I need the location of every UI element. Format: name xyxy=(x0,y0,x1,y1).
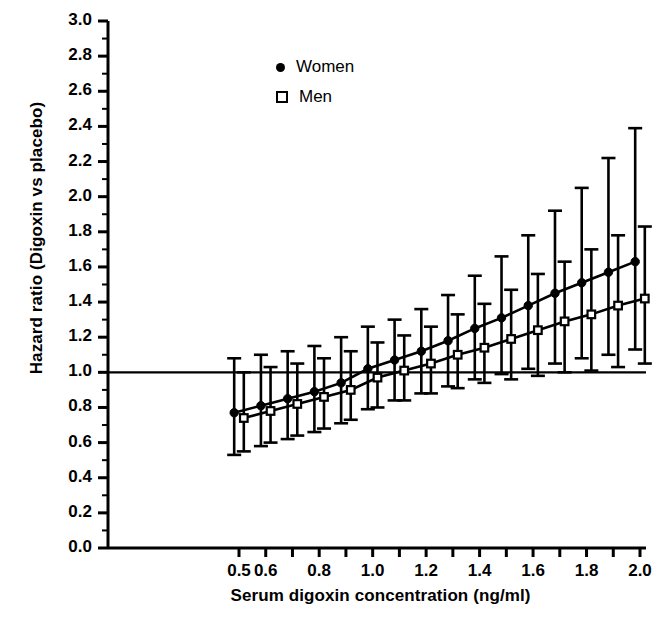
y-tick-label: 0.0 xyxy=(32,537,92,557)
x-tick-label: 0.8 xyxy=(296,561,342,581)
y-tick-label: 2.4 xyxy=(32,115,92,135)
data-point-men xyxy=(347,386,355,394)
data-point-women xyxy=(524,301,532,309)
data-point-men xyxy=(320,393,328,401)
data-point-women xyxy=(417,347,425,355)
x-tick-label: 1.6 xyxy=(510,561,556,581)
y-tick-label: 0.6 xyxy=(32,432,92,452)
data-point-women xyxy=(631,257,639,265)
y-tick-label: 0.2 xyxy=(32,502,92,522)
y-tick-label: 2.0 xyxy=(32,186,92,206)
chart-legend: WomenMen xyxy=(276,52,354,112)
data-point-women xyxy=(551,289,559,297)
data-point-women xyxy=(497,314,505,322)
legend-label: Men xyxy=(299,87,332,107)
y-tick-label: 0.8 xyxy=(32,396,92,416)
data-point-men xyxy=(267,407,275,415)
data-point-men xyxy=(374,374,382,382)
data-point-women xyxy=(257,402,265,410)
data-point-women xyxy=(578,279,586,287)
legend-item-men: Men xyxy=(276,82,354,112)
y-tick-label: 1.8 xyxy=(32,221,92,241)
data-point-men xyxy=(400,367,408,375)
legend-open-square-icon xyxy=(276,91,288,103)
chart-figure: Hazard ratio (Digoxin vs placebo) Serum … xyxy=(0,0,670,632)
y-tick-label: 3.0 xyxy=(32,10,92,30)
data-point-men xyxy=(481,344,489,352)
y-tick-label: 1.6 xyxy=(32,256,92,276)
data-point-men xyxy=(641,295,649,303)
y-tick-label: 2.6 xyxy=(32,80,92,100)
y-tick-label: 0.4 xyxy=(32,467,92,487)
data-point-women xyxy=(444,337,452,345)
data-point-men xyxy=(561,318,569,326)
y-tick-label: 1.0 xyxy=(32,361,92,381)
series-line xyxy=(234,262,635,413)
data-point-men xyxy=(454,351,462,359)
data-point-men xyxy=(427,360,435,368)
y-tick-label: 2.8 xyxy=(32,45,92,65)
data-point-women xyxy=(604,268,612,276)
data-point-women xyxy=(364,365,372,373)
x-tick-label: 1.2 xyxy=(403,561,449,581)
data-point-men xyxy=(614,302,622,310)
y-tick-label: 1.2 xyxy=(32,326,92,346)
legend-label: Women xyxy=(296,57,354,77)
legend-filled-circle-icon xyxy=(276,63,285,72)
data-point-men xyxy=(507,335,515,343)
data-point-women xyxy=(310,387,318,395)
data-point-women xyxy=(283,394,291,402)
data-point-men xyxy=(588,311,596,319)
x-tick-label: 2.0 xyxy=(617,561,663,581)
x-tick-label: 1.8 xyxy=(564,561,610,581)
legend-item-women: Women xyxy=(276,52,354,82)
data-point-men xyxy=(240,414,248,422)
data-point-women xyxy=(337,379,345,387)
data-point-women xyxy=(471,324,479,332)
x-tick-label: 1.0 xyxy=(350,561,396,581)
data-point-men xyxy=(534,326,542,334)
x-tick-label: 1.4 xyxy=(457,561,503,581)
data-point-men xyxy=(293,400,301,408)
y-tick-label: 1.4 xyxy=(32,291,92,311)
x-tick-label: 0.6 xyxy=(243,561,289,581)
data-point-women xyxy=(390,356,398,364)
data-point-women xyxy=(230,409,238,417)
y-tick-label: 2.2 xyxy=(32,151,92,171)
